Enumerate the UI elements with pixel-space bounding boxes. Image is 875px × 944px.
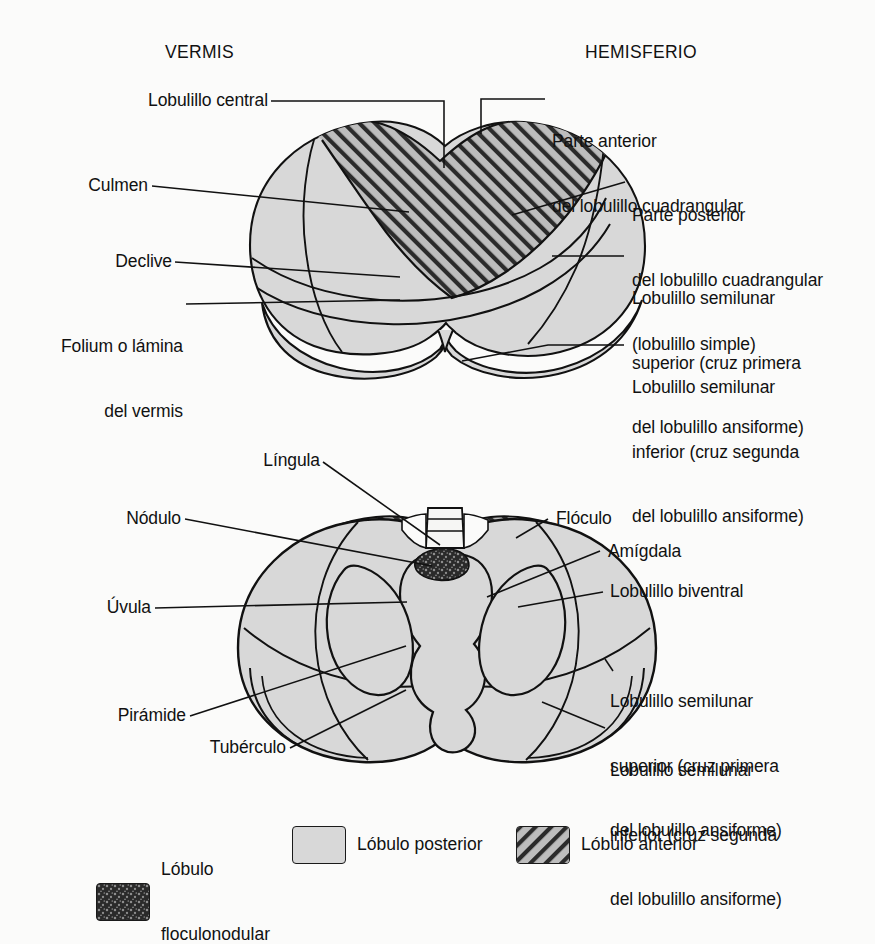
label-semilunar-inferior-lower-line1: Lobulillo semilunar [610,760,782,782]
label-parte-anterior-line1: Parte anterior [552,131,743,153]
label-uvula: Úvula [0,597,151,619]
label-tuberculo: Tubérculo [0,737,286,759]
legend-label-posterior: Lóbulo posterior [357,834,483,856]
legend: Lóbulo floculonodular Lóbulo posterior L… [0,806,875,870]
legend-item-floculonodular: Lóbulo floculonodular [96,816,270,944]
label-lobulillo-biventral: Lobulillo biventral [610,581,743,603]
label-culmen: Culmen [0,175,148,197]
legend-item-posterior: Lóbulo posterior [292,826,483,864]
legend-floculonodular-line1: Lóbulo [161,859,270,881]
label-lingula: Língula [0,450,320,472]
label-semilunar-inferior-line3: del lobulillo ansiforme) [632,506,804,528]
label-semilunar-inferior-upper: Lobulillo semilunar inferior (cruz segun… [632,334,804,549]
label-amigdala: Amígdala [608,541,681,563]
label-folium-line2: del vermis [0,401,183,423]
label-semilunar-superior-lower-line1: Lobulillo semilunar [610,691,782,713]
label-semilunar-inferior-line1: Lobulillo semilunar [632,377,804,399]
label-nodulo: Nódulo [0,508,181,530]
legend-label-floculonodular: Lóbulo floculonodular [161,816,270,944]
label-semilunar-superior-line1: Lobulillo semilunar [632,288,804,310]
label-folium: Folium o lámina del vermis [0,293,183,444]
posterior-swatch [292,826,346,864]
label-parte-posterior-line1: Parte posterior [632,205,823,227]
legend-item-anterior: Lóbulo anterior [516,826,698,864]
label-semilunar-inferior-line2: inferior (cruz segunda [632,442,804,464]
legend-floculonodular-line2: floculonodular [161,924,270,944]
floculonodular-swatch [96,883,150,921]
label-declive: Declive [0,251,172,273]
anterior-swatch [516,826,570,864]
label-lobulillo-central: Lobulillo central [0,90,268,112]
label-semilunar-inferior-lower-line3: del lobulillo ansiforme) [610,889,782,911]
legend-label-anterior: Lóbulo anterior [581,834,698,856]
label-folium-line1: Folium o lámina [0,336,183,358]
label-piramide: Pirámide [0,705,186,727]
header-vermis: VERMIS [165,42,234,63]
lower-lingula [426,508,464,548]
label-floculo: Flóculo [556,508,612,530]
header-hemisferio: HEMISFERIO [585,42,697,63]
